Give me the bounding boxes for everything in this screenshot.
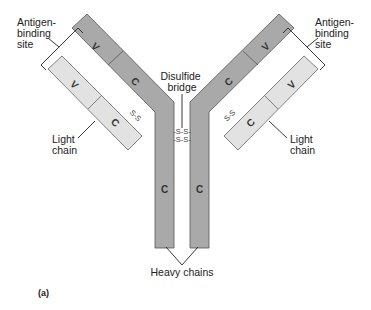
heavy-left-c-stem-label: C [161, 184, 168, 195]
panel-label: (a) [38, 288, 49, 298]
antigen-site-label-right: Antigen- binding site [315, 16, 357, 50]
light-heavy-bond-left: S-S [128, 108, 143, 123]
light-chain-leader-left [78, 121, 95, 138]
light-heavy-bond-right: S-S [222, 108, 237, 123]
antibody-diagram: V C C V C C V C V C -S-S- -S-S- S-S S-S [0, 0, 371, 310]
antigen-site-label-left: Antigen- binding site [17, 16, 59, 50]
hinge-bond-bottom: -S-S- [173, 135, 191, 144]
disulfide-bridge-label: Disulfide bridge [160, 70, 203, 93]
light-chain-label-right: Light chain [290, 133, 316, 156]
heavy-right-c-stem-label: C [196, 184, 203, 195]
light-chain-leader-right [269, 121, 287, 138]
light-chain-label-left: Light chain [52, 133, 78, 156]
disulfide-bonds: -S-S- -S-S- S-S S-S [128, 108, 238, 144]
heavy-chains-label: Heavy chains [150, 266, 213, 278]
heavy-chains-leader [166, 247, 198, 265]
